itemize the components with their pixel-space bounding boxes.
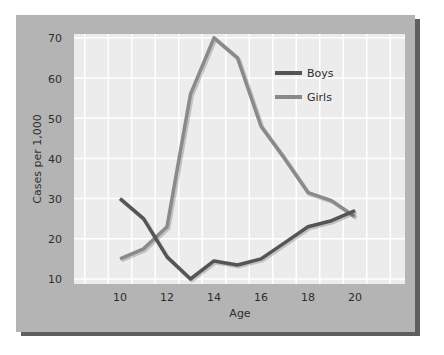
x-axis-label: Age <box>229 307 251 320</box>
y-tick-30: 30 <box>48 193 62 206</box>
y-tick-70: 70 <box>48 32 62 45</box>
y-tick-60: 60 <box>48 73 62 86</box>
x-tick-10: 10 <box>113 291 127 304</box>
y-axis-ticks: 70 60 50 40 30 20 10 <box>48 32 62 286</box>
x-tick-16: 16 <box>254 291 268 304</box>
x-axis-ticks: 10 12 14 16 18 20 <box>113 291 362 304</box>
x-tick-12: 12 <box>160 291 174 304</box>
x-tick-14: 14 <box>207 291 221 304</box>
x-tick-18: 18 <box>301 291 315 304</box>
y-tick-40: 40 <box>48 153 62 166</box>
legend-label-boys: Boys <box>307 67 334 80</box>
y-tick-10: 10 <box>48 273 62 286</box>
legend-label-girls: Girls <box>307 91 332 104</box>
y-axis-label: Cases per 1,000 <box>31 114 44 203</box>
y-tick-20: 20 <box>48 233 62 246</box>
y-tick-50: 50 <box>48 113 62 126</box>
x-tick-20: 20 <box>348 291 362 304</box>
line-chart: 70 60 50 40 30 20 10 10 12 14 16 18 20 A… <box>0 0 444 355</box>
